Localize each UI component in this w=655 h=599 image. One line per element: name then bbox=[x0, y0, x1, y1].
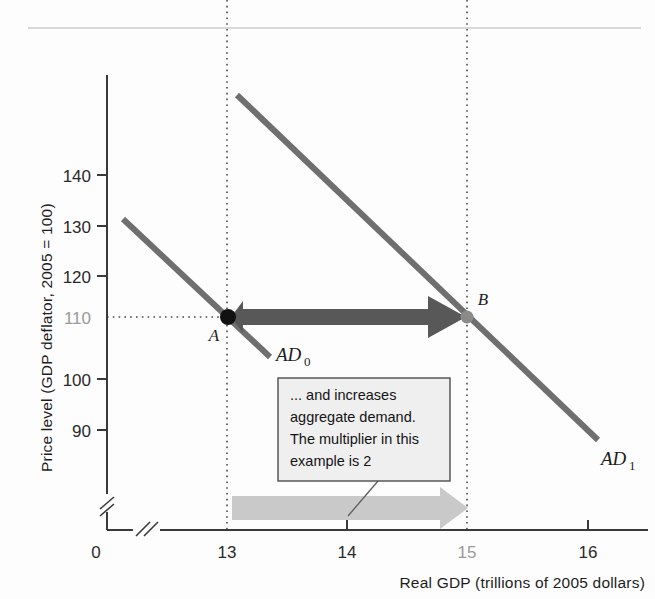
demand-shift-arrow bbox=[231, 296, 466, 338]
y-tick-label-120: 120 bbox=[63, 268, 91, 287]
ad1-curve-label: AD 1 bbox=[599, 448, 636, 473]
x-axis-break-icon bbox=[136, 522, 158, 536]
callout-line-2: aggregate demand. bbox=[290, 409, 416, 425]
x-axis-title: Real GDP (trillions of 2005 dollars) bbox=[399, 574, 645, 591]
point-b-label: B bbox=[478, 290, 489, 309]
y-tick-label-100: 100 bbox=[63, 371, 91, 390]
ad-shift-chart: 140 130 120 110 100 90 0 13 14 15 16 Pri… bbox=[0, 0, 655, 599]
axis-origin-label: 0 bbox=[91, 543, 100, 562]
point-a-label: A bbox=[208, 326, 220, 345]
callout-line-1: ... and increases bbox=[290, 387, 396, 403]
y-tick-label-140: 140 bbox=[63, 167, 91, 186]
y-tick-label-90: 90 bbox=[72, 422, 91, 441]
chart-page: 140 130 120 110 100 90 0 13 14 15 16 Pri… bbox=[0, 0, 655, 599]
x-tick-label-14: 14 bbox=[338, 543, 357, 562]
ad0-curve-label: AD 0 bbox=[274, 344, 311, 369]
callout-line-3: The multiplier in this bbox=[290, 431, 419, 447]
ad0-label-subscript: 0 bbox=[304, 354, 311, 369]
x-tick-label-15: 15 bbox=[458, 543, 477, 562]
x-tick-label-13: 13 bbox=[218, 543, 237, 562]
y-tick-label-110: 110 bbox=[64, 309, 91, 328]
ad1-label-subscript: 1 bbox=[629, 458, 636, 473]
y-axis-title: Price level (GDP deflator, 2005 = 100) bbox=[38, 203, 55, 472]
callout-line-4: example is 2 bbox=[290, 453, 371, 469]
point-a-marker bbox=[220, 309, 236, 325]
y-tick-label-130: 130 bbox=[63, 218, 91, 237]
ad0-label-main: AD bbox=[274, 344, 302, 365]
ad0-curve bbox=[123, 219, 270, 357]
ad1-label-main: AD bbox=[599, 448, 627, 469]
x-tick-label-16: 16 bbox=[579, 543, 598, 562]
point-b-marker bbox=[461, 311, 474, 324]
multiplier-arrow bbox=[232, 487, 468, 529]
